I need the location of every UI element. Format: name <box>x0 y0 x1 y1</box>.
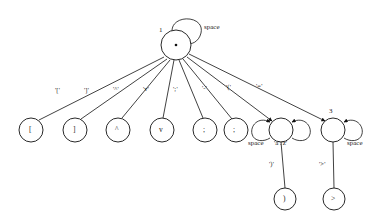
state-number-root: 1 <box>159 27 163 34</box>
edge-label-gt: '>' <box>319 161 326 168</box>
edge-label-eq: '=' <box>256 83 263 90</box>
state-number-2: 3 <box>329 108 333 115</box>
root-center-dot <box>175 44 178 47</box>
state-glyph-gt: > <box>331 195 335 203</box>
loop-label-root-space: space <box>204 24 220 31</box>
state-circle-not[interactable] <box>224 118 248 142</box>
edge-label-rpar: ')' <box>269 161 274 168</box>
self-loop-s3-alpha <box>292 120 310 140</box>
edge-s3-to-rpar <box>281 142 285 188</box>
state-glyph-lbrk: [ <box>29 126 32 134</box>
self-loop-s3-space <box>252 120 270 140</box>
state-glyph-not: ; <box>233 126 235 134</box>
state-circle-s2[interactable] <box>321 118 345 142</box>
self-loop-s2-space <box>344 120 362 140</box>
edge-root-to-rbrk <box>81 59 167 119</box>
edge-s2-to-gt <box>333 142 334 188</box>
edge-root-to-not <box>183 59 232 119</box>
loop-label-s2-space: space <box>347 140 363 147</box>
edge-label-lpar: '(' <box>226 84 231 91</box>
edge-label-caret: '^' <box>113 86 119 93</box>
loop-label-s3-alpha: 'a'.'z' <box>274 140 287 147</box>
edge-label-not: '-' <box>202 85 207 92</box>
state-glyph-rpar: ) <box>283 195 286 203</box>
edge-label-vee: 'v' <box>143 86 149 93</box>
state-circles <box>19 30 345 210</box>
state-glyph-caret: ^ <box>115 126 119 134</box>
edge-label-rbrk: ']' <box>84 87 89 94</box>
state-glyph-vee: v <box>159 126 163 134</box>
state-glyph-semi: ; <box>203 126 205 134</box>
diagram-canvas: 1 3 [ ] ^ v ; ; ) > '[' ']' '^' 'v' ';' … <box>0 0 384 218</box>
state-glyph-rbrk: ] <box>73 126 76 134</box>
edge-label-lbrk: '[' <box>55 87 60 94</box>
edge-label-semi: ';' <box>173 86 178 93</box>
diagram-svg <box>0 0 384 218</box>
loop-label-s3-space: space <box>248 140 264 147</box>
